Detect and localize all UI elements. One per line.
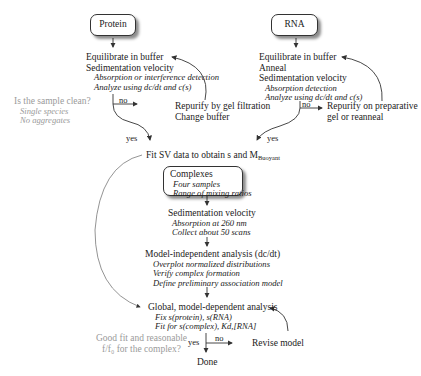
rna-label: RNA [272,19,317,29]
fit-no-label: no [215,333,224,344]
protein-detail-analyze: Analyze using dc/dt and c(s) [86,83,219,93]
sv-step: Sedimentation velocity Absorption at 260… [168,208,256,238]
protein-steps: Equilibrate in buffer Sedimentation velo… [86,52,219,92]
fit-sv-step: Fit SV data to obtain s and MBuoyant [146,150,280,164]
rna-step-sv: Sedimentation velocity [259,73,362,84]
revise-model-step: Revise model [252,338,304,349]
fit-sv-subscript: Buoyant [258,154,280,161]
protein-label: Protein [91,19,135,29]
rna-step-equilibrate: Equilibrate in buffer [259,52,362,63]
mi-detail-define: Define preliminary association model [145,279,283,289]
protein-repurify-gel: Repurify by gel filtration [175,101,270,112]
global-title: Global, model-dependent analysis [148,302,278,313]
rna-repurify: Repurify on preparative gel or reanneal [327,101,418,122]
protein-repurify-buffer: Change buffer [175,112,270,123]
model-independent-title: Model-independent analysis (dc/dt) [145,249,283,260]
protein-repurify: Repurify by gel filtration Change buffer [175,101,270,122]
protein-start-box: Protein [90,14,136,36]
protein-step-equilibrate: Equilibrate in buffer [86,52,219,63]
complexes-detail-ratios: Range of mixing ratios [170,189,252,199]
clean-question-title: Is the sample clean? [14,96,91,107]
fit-yes-label: yes [188,337,199,348]
fit-question: Good fit and reasonable f/f₀ for the com… [96,333,187,354]
rna-step-anneal: Anneal [259,63,362,74]
rna-start-box: RNA [271,14,318,36]
rna-no-label: no [302,99,311,110]
protein-no-label: no [119,95,128,106]
global-analysis-step: Global, model-dependent analysis Fix s(p… [148,302,278,332]
fit-sv-text: Fit SV data to obtain s and M [146,150,258,160]
rna-repurify-reanneal: gel or reanneal [327,112,418,123]
complexes-box: Complexes Four samples Range of mixing r… [163,166,243,196]
rna-steps: Equilibrate in buffer Anneal Sedimentati… [259,52,362,103]
clean-question: Is the sample clean? Single species No a… [14,96,91,126]
sv-title: Sedimentation velocity [168,208,256,219]
complexes-title: Complexes [170,169,252,180]
model-independent-step: Model-independent analysis (dc/dt) Overp… [145,249,283,288]
fit-question-line1: Good fit and reasonable [96,333,187,344]
protein-yes-label: yes [126,133,137,144]
rna-yes-label: yes [267,133,278,144]
clean-detail-aggregates: No aggregates [14,116,91,126]
done-step: Done [197,357,218,368]
fit-question-line2: f/f₀ for the complex? [96,344,187,355]
global-detail-fit: Fit for s(complex), Kd,[RNA] [148,322,278,332]
rna-repurify-gel: Repurify on preparative [327,101,418,112]
sv-detail-scans: Collect about 50 scans [168,228,256,238]
